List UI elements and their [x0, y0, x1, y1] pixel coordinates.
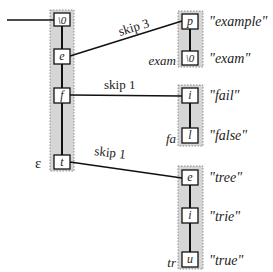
- group-exam-prefix: exam: [149, 53, 176, 68]
- skip-edge-t: [70, 162, 182, 178]
- root-node-f: f: [54, 88, 70, 103]
- word-tree: "tree": [209, 170, 242, 185]
- root-node-null: \0: [54, 13, 70, 26]
- edge-label-skip1-f: skip 1: [104, 77, 135, 92]
- svg-text:u: u: [187, 252, 193, 266]
- group-fa-node-i: i: [182, 88, 198, 103]
- word-false: "false": [209, 128, 247, 143]
- group-fa-node-l: l: [182, 128, 198, 143]
- word-true: "true": [209, 253, 243, 268]
- svg-text:\0: \0: [186, 52, 195, 64]
- root-epsilon-label: ε: [35, 155, 41, 171]
- trie-diagram: skip 3 skip 1 skip 1 \0 e f t ε p \0 exa…: [0, 0, 273, 272]
- word-example: "example": [209, 14, 268, 29]
- group-fa-prefix: fa: [166, 131, 177, 146]
- group-exam-node-null: \0: [182, 51, 198, 65]
- edge-label-skip1-t: skip 1: [94, 143, 127, 162]
- svg-text:e: e: [187, 170, 193, 184]
- root-node-t: t: [54, 155, 70, 169]
- svg-text:\0: \0: [58, 14, 67, 26]
- svg-text:i: i: [188, 208, 191, 222]
- group-tr-node-e: e: [182, 170, 198, 185]
- svg-text:e: e: [59, 49, 65, 63]
- svg-text:p: p: [186, 14, 193, 28]
- word-exam: "exam": [209, 51, 250, 66]
- group-tr-node-u: u: [182, 252, 198, 267]
- root-node-e: e: [54, 49, 70, 64]
- group-tr-node-i: i: [182, 208, 198, 223]
- word-trie: "trie": [209, 209, 240, 224]
- group-tr-prefix: tr: [167, 255, 177, 270]
- svg-text:i: i: [188, 88, 191, 102]
- skip-edge-f: [70, 95, 182, 96]
- group-exam-node-p: p: [182, 14, 198, 29]
- word-fail: "fail": [209, 88, 240, 103]
